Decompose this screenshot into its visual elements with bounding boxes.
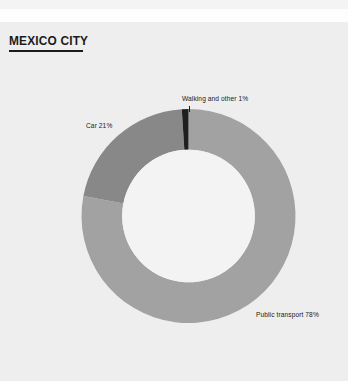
donut-chart [0, 0, 348, 381]
donut-slice-group [81, 109, 295, 323]
slice-label-walking-and-other: Walking and other 1% [182, 95, 248, 103]
slice-label-car: Car 21% [86, 122, 112, 130]
slice-label-public-transport: Public transport 78% [256, 311, 319, 319]
chart-figure: MEXICO CITY Walking and other 1% Car 21%… [0, 0, 348, 381]
